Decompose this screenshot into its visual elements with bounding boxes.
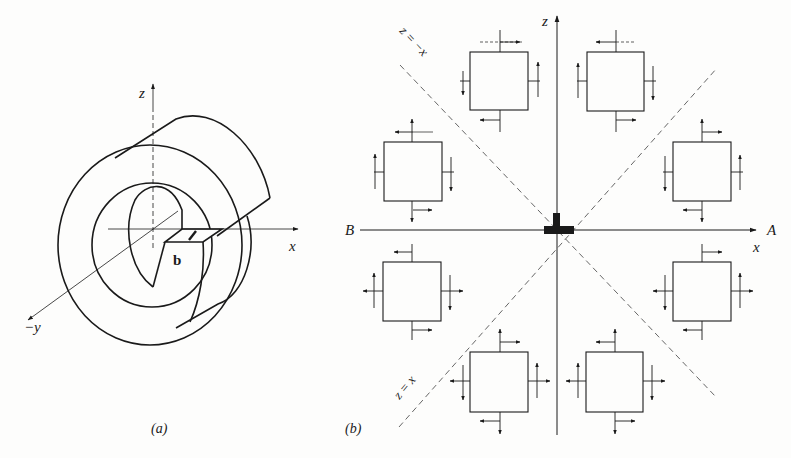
burgers-vector-label: b: [173, 253, 181, 268]
panel-a-drawing: [28, 84, 298, 345]
torus-front-outer: [58, 145, 242, 345]
element-box-top-left: [460, 30, 540, 132]
element-box-bottom-right: [566, 329, 665, 434]
panel-b-z-label: z: [542, 14, 548, 29]
element-box-mid-left-upper: [374, 119, 454, 222]
element-box-bottom-left: [450, 329, 550, 434]
element-box-mid-left-lower: [363, 244, 463, 340]
label-A: A: [767, 223, 776, 238]
panel-b-x-label: x: [753, 240, 760, 255]
torus-front-inner: [92, 183, 212, 307]
panel-a-caption: (a): [151, 422, 167, 436]
panel-b-caption: (b): [345, 422, 361, 436]
panel-a-neg-y-label: −y: [24, 320, 41, 335]
diagonal-z-eq-x: [399, 68, 717, 427]
panel-a-z-label: z: [139, 86, 145, 101]
element-box-mid-right-lower: [653, 244, 753, 340]
panel-a-x-label: x: [289, 239, 296, 254]
element-box-mid-right-upper: [663, 119, 743, 222]
panel-b-drawing: [360, 16, 756, 435]
label-B: B: [345, 223, 354, 238]
element-box-top-right: [577, 30, 656, 132]
figure: z x −y b (a) z x B A z = −x z = x (b): [0, 0, 791, 458]
